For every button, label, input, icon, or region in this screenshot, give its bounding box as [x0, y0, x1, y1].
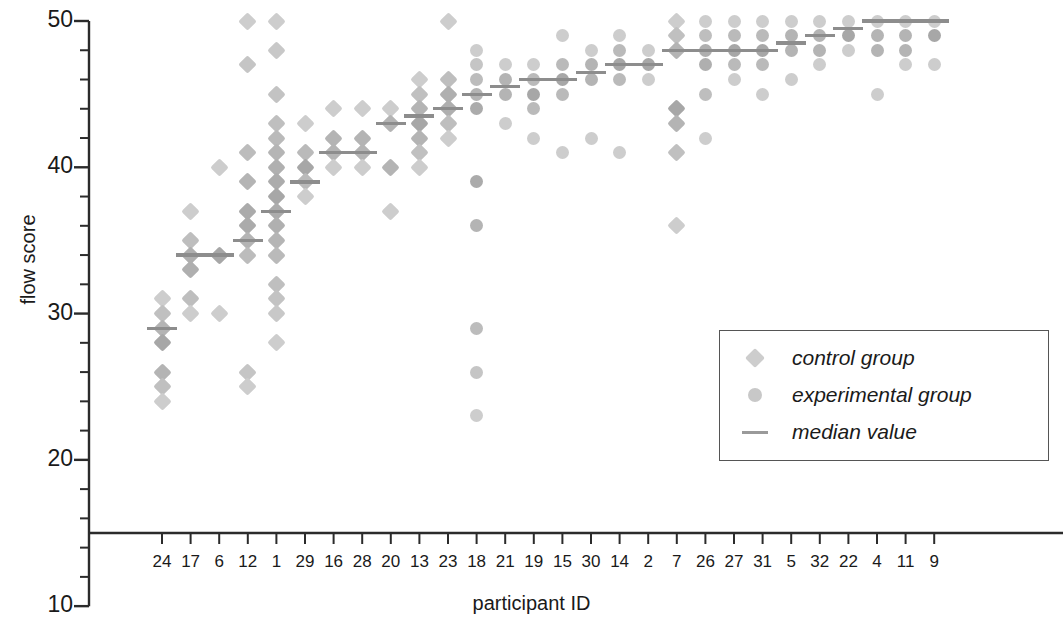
legend-item-experimental: experimental group: [742, 378, 972, 412]
chart-legend: control group experimental group median …: [719, 330, 1049, 461]
x-axis-tick-labels: 2417612129162820132318211915301427262731…: [0, 0, 1063, 622]
legend-label-median: median value: [792, 420, 917, 444]
control-diamond-icon: [742, 345, 768, 371]
legend-label-experimental: experimental group: [792, 383, 972, 407]
legend-item-median: median value: [742, 415, 917, 449]
legend-item-control: control group: [742, 341, 915, 375]
legend-label-control: control group: [792, 346, 915, 370]
x-tick-label: 9: [914, 552, 954, 572]
median-line-icon: [742, 419, 768, 445]
flow-score-strip-chart: 5040302010 24176121291628201323182119153…: [0, 0, 1063, 622]
y-axis-title: flow score: [17, 180, 40, 340]
experimental-circle-icon: [742, 382, 768, 408]
x-axis-title: participant ID: [0, 592, 1063, 615]
